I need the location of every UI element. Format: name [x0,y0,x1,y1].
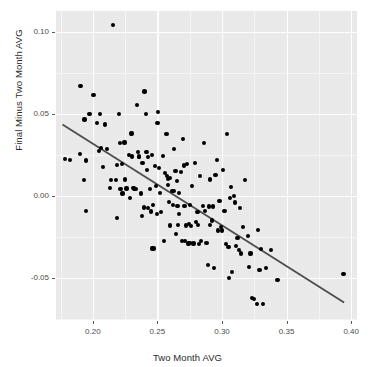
data-point [255,302,259,306]
data-point [91,93,95,97]
data-point [181,137,185,141]
data-point [151,246,155,250]
data-point [256,228,260,232]
data-point [108,186,112,190]
y-axis-tick-mark [52,196,55,197]
data-point [179,170,183,174]
data-point [168,223,172,227]
data-point [176,223,180,227]
grid-line-vertical-minor [61,11,62,320]
data-point [221,168,225,172]
data-point [211,204,215,208]
data-point [174,232,178,236]
data-point [98,112,102,116]
data-point [139,191,143,195]
grid-line-horizontal-minor [56,73,357,74]
data-point [133,187,137,191]
grid-line-vertical-minor [319,11,320,320]
grid-line-vertical-minor [190,11,191,320]
grid-line-horizontal-minor [56,155,357,156]
data-point [257,268,261,272]
data-point [84,158,88,162]
data-point [235,236,239,240]
x-axis-tick-mark [157,321,158,324]
data-point [78,84,82,88]
data-point [201,204,205,208]
data-point [190,184,194,188]
x-axis-tick-mark [351,321,352,324]
data-point [149,209,153,213]
data-point [229,185,233,189]
data-point [226,245,230,249]
data-point [155,121,159,125]
data-point [144,150,148,154]
data-point [177,191,181,195]
data-point [215,158,219,162]
data-point [230,270,234,274]
data-point [196,223,200,227]
data-point [259,247,263,251]
data-point [82,178,86,182]
data-point [208,223,212,227]
data-point [269,248,273,252]
grid-line-horizontal-minor [56,319,357,320]
data-point [195,210,199,214]
data-point [225,132,229,136]
data-point [175,204,179,208]
data-point [212,266,216,270]
grid-line-vertical-minor [254,11,255,320]
x-axis-tick-mark [222,321,223,324]
data-point [199,239,203,243]
data-point [122,140,126,144]
data-point [173,169,177,173]
data-point [135,103,139,107]
data-point [182,204,186,208]
grid-line-vertical-major [351,11,352,320]
data-point [78,152,82,156]
data-point [150,153,154,157]
data-point [82,117,86,121]
x-axis-tick-label: 0.20 [73,327,113,336]
data-point [171,189,175,193]
grid-line-vertical-major [222,11,223,320]
data-point [220,228,224,232]
data-point [84,209,88,213]
data-point [232,194,236,198]
data-point [238,206,242,210]
data-point [101,165,105,169]
grid-line-horizontal-major [56,278,357,279]
data-point [129,131,133,135]
data-point [206,263,210,267]
data-point [241,225,245,229]
data-point [198,174,202,178]
data-point [120,191,124,195]
data-point [158,191,162,195]
y-axis-tick-mark [52,114,55,115]
data-point [228,196,232,200]
data-point [213,173,217,177]
data-point [63,157,67,161]
y-axis-title: Final Minus Two Month AVG [13,10,25,170]
data-point [120,162,124,166]
data-point [341,272,345,276]
data-point [189,224,193,228]
data-point [130,154,134,158]
data-point [217,199,221,203]
data-point [114,178,118,182]
data-point [188,203,192,207]
data-point [252,297,256,301]
grid-line-vertical-major [93,11,94,320]
data-point [109,178,113,182]
scatter-plot-figure: -0.050.000.050.10 0.200.250.300.350.40 T… [0,0,375,367]
x-axis-tick-label: 0.40 [331,327,371,336]
data-point [68,158,72,162]
data-point [128,196,132,200]
data-point [124,186,128,190]
data-point [208,177,212,181]
data-point [123,177,127,181]
data-point [248,251,252,255]
data-point [247,265,251,269]
data-point [203,209,207,213]
data-point [172,147,176,151]
regression-line [62,124,344,302]
